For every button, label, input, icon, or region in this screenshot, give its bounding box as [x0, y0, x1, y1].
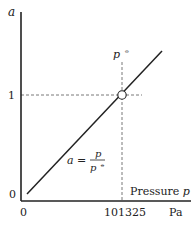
y-tick-one: 1 — [8, 89, 15, 102]
x-tick-standard-pressure: 101325 — [104, 206, 146, 219]
x-tick-zero: 0 — [20, 206, 27, 219]
y-tick-zero: 0 — [9, 188, 16, 201]
standard-state-point — [118, 91, 126, 99]
equation-denominator-superscript: ⦵ — [100, 161, 105, 168]
equation-lhs: a = — [67, 154, 86, 167]
x-axis-title-symbol: p — [183, 185, 190, 198]
activity-pressure-diagram: a 1 0 0 101325 Pa Pressure p p ⦵ a = p p… — [0, 0, 191, 226]
equation-numerator: p — [95, 148, 102, 159]
equation-denominator: p ⦵ — [90, 161, 105, 173]
x-axis-title: Pressure p — [130, 185, 190, 198]
equation-denominator-symbol: p — [90, 162, 97, 173]
equation-label: a = p p ⦵ — [67, 148, 105, 173]
x-unit-label: Pa — [169, 206, 183, 219]
standard-pressure-symbol: p — [113, 48, 120, 61]
y-axis-label: a — [8, 5, 15, 19]
standard-pressure-label: p ⦵ — [113, 47, 130, 61]
standard-pressure-superscript: ⦵ — [124, 47, 130, 55]
x-axis-title-word: Pressure — [130, 185, 179, 198]
